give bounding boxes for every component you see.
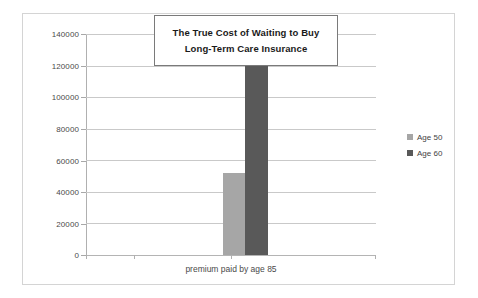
y-tick-label-80000: 80000 — [56, 125, 79, 134]
x-tick-mark-inner-2 — [231, 255, 232, 259]
chart-title-box: The True Cost of Waiting to Buy Long-Ter… — [154, 15, 338, 66]
chart-frame: 140000 120000 100000 80000 60000 40000 2… — [22, 13, 455, 285]
y-tick-label-0: 0 — [74, 251, 79, 260]
legend-swatch-icon-age-60 — [407, 150, 413, 156]
y-tick-label-140000: 140000 — [52, 30, 79, 39]
x-tick-mark-inner-1 — [134, 255, 135, 259]
chart-title-line-1: The True Cost of Waiting to Buy — [173, 25, 320, 41]
legend-label-age-60: Age 60 — [417, 149, 442, 158]
x-tick-mark-right — [375, 255, 376, 259]
y-tick-label-60000: 60000 — [56, 157, 79, 166]
x-tick-mark-left — [86, 255, 87, 259]
gridline-120000 — [86, 66, 376, 67]
legend-item-age-50[interactable]: Age 50 — [407, 129, 455, 145]
y-tick-label-40000: 40000 — [56, 188, 79, 197]
chart-legend: Age 50 Age 60 — [407, 129, 455, 161]
x-axis-title: premium paid by age 85 — [86, 264, 376, 274]
legend-swatch-icon-age-50 — [407, 134, 413, 140]
legend-label-age-50: Age 50 — [417, 133, 442, 142]
y-tick-label-120000: 120000 — [52, 62, 79, 71]
y-tick-label-20000: 20000 — [56, 220, 79, 229]
plot-area — [86, 34, 376, 255]
y-axis-tick-labels: 140000 120000 100000 80000 60000 40000 2… — [23, 14, 79, 286]
legend-item-age-60[interactable]: Age 60 — [407, 145, 455, 161]
gridline-80000 — [86, 129, 376, 130]
gridline-60000 — [86, 160, 376, 161]
y-tick-label-100000: 100000 — [52, 93, 79, 102]
chart-title-line-2: Long-Term Care Insurance — [185, 41, 308, 57]
bar-age-50[interactable] — [223, 173, 245, 255]
gridline-100000 — [86, 97, 376, 98]
bar-age-60[interactable] — [245, 45, 268, 255]
